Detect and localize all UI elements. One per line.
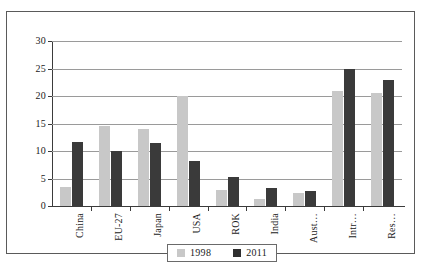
category-label: Aust… [309, 213, 319, 243]
category-label: ROK [231, 213, 241, 235]
bar [111, 151, 122, 206]
bar [305, 191, 316, 206]
x-tick-mark [246, 206, 247, 211]
y-tick-label-25: 25 [36, 64, 46, 74]
y-tick-mark-30 [48, 41, 52, 42]
bar [189, 161, 200, 206]
y-tick-label-20: 20 [36, 91, 46, 101]
y-tick-mark-25 [48, 69, 52, 70]
x-tick-mark [324, 206, 325, 211]
bar [371, 93, 382, 206]
bar [266, 188, 277, 206]
bar-group [60, 41, 83, 206]
x-tick-mark [363, 206, 364, 211]
bar-group [332, 41, 355, 206]
bar [332, 91, 343, 207]
legend-swatch-1998-icon [177, 249, 185, 257]
y-tick-mark-10 [48, 151, 52, 152]
plot-area: 051015202530 ChinaEU-27JapanUSAROKIndiaA… [52, 41, 402, 207]
y-tick-mark-0 [48, 206, 52, 207]
category-label: China [75, 213, 85, 238]
y-tick-label-0: 0 [41, 201, 46, 211]
category-label: India [270, 213, 280, 235]
bar [60, 187, 71, 206]
bar [383, 80, 394, 207]
bar [293, 193, 304, 206]
category-label: EU-27 [114, 213, 124, 241]
x-axis-line [52, 206, 405, 207]
bar-group [293, 41, 316, 206]
bar-group [177, 41, 200, 206]
x-tick-mark [285, 206, 286, 211]
chart-legend: 1998 2011 [167, 244, 277, 262]
x-tick-mark [130, 206, 131, 211]
category-label: Japan [153, 213, 163, 237]
bar [177, 96, 188, 206]
figure-frame: 051015202530 ChinaEU-27JapanUSAROKIndiaA… [6, 11, 415, 254]
bar [138, 129, 149, 206]
legend-label-2011: 2011 [246, 248, 267, 258]
y-tick-mark-20 [48, 96, 52, 97]
bar [99, 126, 110, 206]
legend-item-2011: 2011 [233, 248, 267, 258]
x-tick-mark [91, 206, 92, 211]
y-tick-mark-15 [48, 124, 52, 125]
bar [228, 177, 239, 206]
bar-group [371, 41, 394, 206]
y-tick-mark-5 [48, 179, 52, 180]
y-tick-label-5: 5 [41, 174, 46, 184]
legend-swatch-2011-icon [233, 249, 241, 257]
bar [254, 199, 265, 206]
category-label: Intr… [348, 213, 358, 238]
x-tick-mark [169, 206, 170, 211]
x-tick-mark [208, 206, 209, 211]
category-label: Res… [387, 213, 397, 239]
category-label: USA [192, 213, 202, 234]
bar [344, 69, 355, 207]
legend-item-1998: 1998 [177, 248, 211, 258]
y-tick-label-30: 30 [36, 36, 46, 46]
bar-group [99, 41, 122, 206]
bar [150, 143, 161, 206]
y-tick-label-15: 15 [36, 119, 46, 129]
bar [72, 142, 83, 206]
chart-figure: 051015202530 ChinaEU-27JapanUSAROKIndiaA… [0, 0, 421, 264]
bar-group [138, 41, 161, 206]
bar-group [216, 41, 239, 206]
bar-group [254, 41, 277, 206]
bar [216, 190, 227, 206]
legend-label-1998: 1998 [190, 248, 211, 258]
y-tick-label-10: 10 [36, 146, 46, 156]
